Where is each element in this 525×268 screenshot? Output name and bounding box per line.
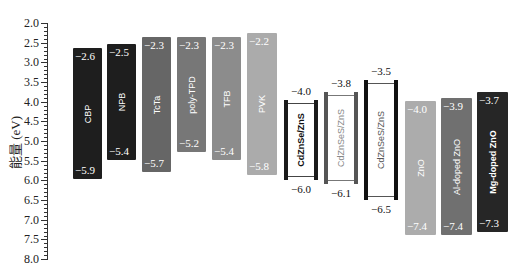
qd-left-wall: [364, 80, 368, 200]
homo-value: −7.4: [443, 221, 463, 232]
qd-right-wall: [314, 100, 318, 180]
y-minor-tick: [44, 232, 48, 233]
lumo-value: −4.0: [407, 104, 427, 115]
y-minor-tick: [44, 133, 48, 134]
bar-poly-tpd: −2.3 poly-TPD −5.2: [177, 37, 206, 152]
lumo-value: −2.5: [109, 47, 129, 58]
y-tick-label: 2.0: [13, 17, 39, 29]
lumo-value: −3.9: [443, 101, 463, 112]
qd-top-line: [328, 95, 354, 96]
y-tick-label: 8.0: [13, 253, 39, 265]
homo-value: −7.3: [479, 218, 499, 229]
homo-value: −5.2: [179, 138, 199, 149]
qd-bottom-line: [328, 180, 354, 181]
y-tick: [41, 102, 48, 103]
lumo-value: −3.5: [371, 66, 391, 77]
y-minor-tick: [44, 208, 48, 209]
y-minor-tick: [44, 74, 48, 75]
y-tick-label: 7.0: [13, 214, 39, 226]
bar-label: PVK: [257, 95, 267, 113]
bar-label: TcTa: [152, 95, 162, 114]
y-minor-tick: [44, 94, 48, 95]
bar-label: CBP: [83, 104, 93, 123]
qd-bottom-line: [368, 196, 394, 197]
y-minor-tick: [44, 66, 48, 67]
qd-top-line: [288, 103, 314, 104]
y-tick-label: 2.5: [13, 37, 39, 49]
y-minor-tick: [44, 224, 48, 225]
bar-npb: −2.5 NPB −5.4: [107, 44, 136, 160]
y-minor-tick: [44, 86, 48, 87]
y-tick: [41, 23, 48, 24]
y-minor-tick: [44, 129, 48, 130]
y-tick: [41, 161, 48, 162]
y-tick-label: 7.5: [13, 233, 39, 245]
y-tick: [41, 220, 48, 221]
y-minor-tick: [44, 145, 48, 146]
homo-value: −5.8: [249, 161, 269, 172]
y-axis-label: 能量 (eV): [5, 116, 24, 169]
homo-value: −7.4: [407, 221, 427, 232]
y-tick: [41, 62, 48, 63]
qd-cdznse-zns: −4.0 CdZnSe/ZnS −6.0: [284, 100, 318, 180]
y-minor-tick: [44, 27, 48, 28]
lumo-value: −3.7: [479, 95, 499, 106]
y-tick-label: 6.5: [13, 194, 39, 206]
qd-left-wall: [324, 92, 328, 184]
homo-value: −6.1: [331, 188, 351, 199]
qd-right-wall: [354, 92, 358, 184]
bar-label: NPB: [117, 93, 127, 112]
y-minor-tick: [44, 78, 48, 79]
y-tick-label: 3.0: [13, 56, 39, 68]
bar-mg-doped-zno: −3.7 Mg-doped ZnO −7.3: [477, 92, 508, 232]
y-minor-tick: [44, 55, 48, 56]
bar-al-doped-zno: −3.9 Al-doped ZnO −7.4: [441, 98, 472, 235]
bar-label: Al-doped ZnO: [452, 138, 462, 194]
bar-pvk: −2.2 PVK −5.8: [247, 33, 277, 175]
lumo-value: −2.3: [214, 40, 234, 51]
y-minor-tick: [44, 247, 48, 248]
y-tick-label: 6.0: [13, 174, 39, 186]
y-minor-tick: [44, 184, 48, 185]
bar-label: poly-TPD: [187, 76, 197, 114]
qd-cdznses-zns-2: −3.5 CdZnSeS/ZnS −6.5: [364, 80, 398, 200]
bar-tcta: −2.3 TcTa −5.7: [142, 37, 171, 172]
y-minor-tick: [44, 31, 48, 32]
bar-cbp: −2.6 CBP −5.9: [73, 48, 102, 179]
y-minor-tick: [44, 236, 48, 237]
y-tick: [41, 141, 48, 142]
homo-value: −5.4: [109, 146, 129, 157]
homo-value: −6.0: [291, 184, 311, 195]
y-minor-tick: [44, 157, 48, 158]
qd-right-wall: [394, 80, 398, 200]
y-minor-tick: [44, 204, 48, 205]
y-minor-tick: [44, 216, 48, 217]
y-minor-tick: [44, 153, 48, 154]
y-minor-tick: [44, 165, 48, 166]
y-tick: [41, 239, 48, 240]
qd-label: CdZnSeS/ZnS: [336, 109, 346, 167]
qd-top-line: [368, 83, 394, 84]
y-tick-label: 3.5: [13, 76, 39, 88]
homo-value: −5.7: [144, 158, 164, 169]
y-tick-label: 4.0: [13, 96, 39, 108]
y-minor-tick: [44, 47, 48, 48]
qd-label: CdZnSeS/ZnS: [376, 111, 386, 169]
bar-tfb: −2.3 TFB −5.4: [212, 37, 241, 160]
y-minor-tick: [44, 59, 48, 60]
qd-bottom-line: [288, 176, 314, 177]
y-minor-tick: [44, 177, 48, 178]
y-tick: [41, 43, 48, 44]
lumo-value: −3.8: [331, 78, 351, 89]
lumo-value: −2.2: [249, 36, 269, 47]
qd-label: CdZnSe/ZnS: [296, 113, 306, 167]
y-minor-tick: [44, 137, 48, 138]
y-minor-tick: [44, 51, 48, 52]
lumo-value: −2.3: [144, 40, 164, 51]
qd-left-wall: [284, 100, 288, 180]
y-minor-tick: [44, 110, 48, 111]
bar-label: TFB: [222, 90, 232, 107]
y-minor-tick: [44, 212, 48, 213]
y-tick: [41, 200, 48, 201]
lumo-value: −2.3: [179, 40, 199, 51]
